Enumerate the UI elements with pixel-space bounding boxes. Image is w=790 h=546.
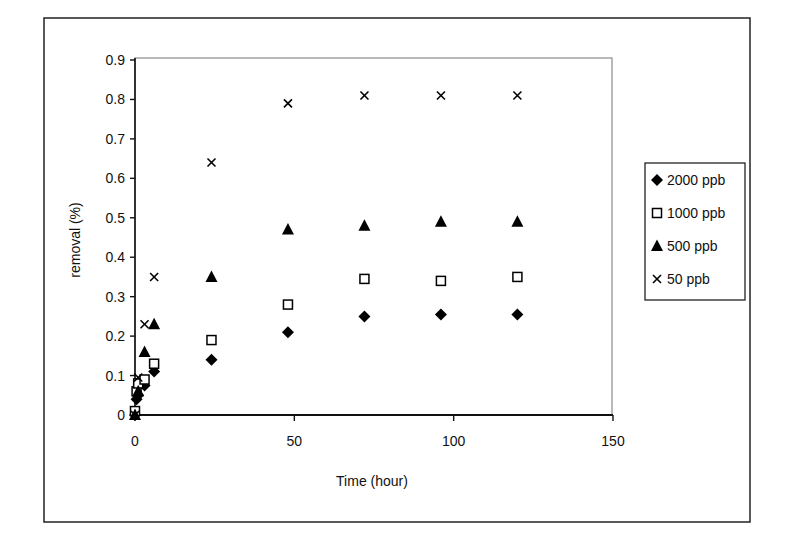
y-tick-label: 0.1 xyxy=(106,368,126,384)
data-point xyxy=(207,336,216,345)
data-point xyxy=(360,274,369,283)
legend-label: 500 ppb xyxy=(667,238,718,254)
y-tick-label: 0.3 xyxy=(106,289,126,305)
y-axis-title: removal (%) xyxy=(67,202,83,277)
data-point xyxy=(436,276,445,285)
data-point xyxy=(150,359,159,368)
legend-marker-icon xyxy=(653,209,662,218)
y-tick-label: 0.8 xyxy=(106,91,126,107)
legend-label: 50 ppb xyxy=(667,271,710,287)
data-point xyxy=(283,300,292,309)
x-tick-label: 150 xyxy=(601,433,625,449)
y-tick-label: 0.9 xyxy=(106,52,126,68)
y-tick-label: 0.7 xyxy=(106,131,126,147)
x-tick-label: 100 xyxy=(442,433,466,449)
legend: 2000 ppb1000 ppb500 ppb50 ppb xyxy=(645,163,745,300)
legend-label: 2000 ppb xyxy=(667,172,726,188)
x-tick-label: 50 xyxy=(287,433,303,449)
y-tick-label: 0.6 xyxy=(106,170,126,186)
x-axis-title: Time (hour) xyxy=(336,473,408,489)
x-tick-label: 0 xyxy=(131,433,139,449)
data-point xyxy=(140,375,149,384)
chart-frame xyxy=(44,18,750,522)
y-tick-label: 0.4 xyxy=(106,249,126,265)
y-tick-label: 0 xyxy=(117,407,125,423)
y-tick-label: 0.2 xyxy=(106,328,126,344)
chart: 00.10.20.30.40.50.60.70.80.9 050100150 T… xyxy=(0,0,790,546)
y-tick-label: 0.5 xyxy=(106,210,126,226)
data-point xyxy=(513,272,522,281)
legend-label: 1000 ppb xyxy=(667,205,726,221)
